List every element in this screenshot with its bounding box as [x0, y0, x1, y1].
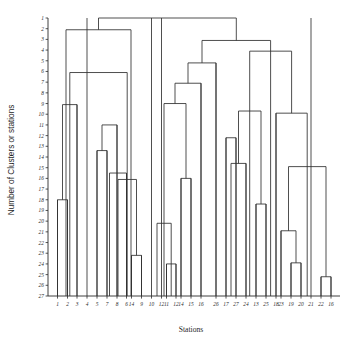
x-tick-label: 15 [188, 301, 194, 307]
x-tick-label: 14 [178, 301, 184, 307]
dendrogram-link [132, 255, 142, 296]
y-tick-label: 4 [41, 47, 44, 53]
y-tick-label: 27 [39, 293, 45, 299]
chart-title [0, 0, 361, 7]
y-tick-label: 1 [41, 15, 44, 21]
x-tick-label: 16 [198, 301, 204, 307]
y-axis-ticks: 1234567891011121314151617181920212223242… [39, 15, 48, 299]
y-tick-label: 16 [39, 175, 45, 181]
dendrogram-link [256, 204, 266, 296]
dendrogram-link [181, 178, 191, 296]
x-tick-label: 24 [243, 301, 249, 307]
dendrogram-link [175, 83, 201, 296]
x-tick-label: 21 [308, 301, 314, 307]
x-tick-label: 3 [75, 301, 79, 307]
y-tick-label: 9 [41, 101, 44, 107]
y-tick-label: 21 [39, 229, 45, 235]
y-tick-label: 25 [39, 272, 45, 278]
y-tick-label: 5 [41, 58, 44, 64]
dendrogram-link [321, 277, 331, 296]
x-tick-label: 19 [288, 301, 294, 307]
dendrogram-links [58, 18, 332, 296]
x-tick-label: 2 [66, 301, 69, 307]
dendrogram-link [188, 63, 216, 296]
x-tick-label: 16 [328, 301, 334, 307]
dendrogram-link [231, 163, 246, 296]
dendrogram-figure: 1234567891011121314151617181920212223242… [0, 0, 361, 340]
y-tick-label: 19 [39, 207, 45, 213]
y-tick-label: 11 [39, 122, 44, 128]
dendrogram-link [291, 263, 301, 296]
y-tick-label: 23 [39, 250, 45, 256]
y-tick-label: 15 [39, 165, 45, 171]
x-tick-label: 27 [233, 301, 239, 307]
y-tick-label: 13 [39, 143, 45, 149]
y-tick-label: 2 [41, 26, 44, 32]
x-tick-label: 4 [86, 301, 89, 307]
y-tick-label: 18 [39, 197, 45, 203]
y-tick-label: 22 [39, 240, 45, 246]
dendrogram-link [97, 151, 107, 296]
y-tick-label: 24 [39, 261, 45, 267]
x-tick-label: 7 [106, 301, 109, 307]
dendrogram-plot: 1234567891011121314151617181920212223242… [0, 0, 361, 340]
x-tick-label: 6 [125, 301, 128, 307]
x-tick-label: 25 [263, 301, 269, 307]
dendrogram-link [66, 30, 131, 296]
x-tick-label: 13 [253, 301, 259, 307]
x-tick-label: 23 [278, 301, 284, 307]
y-tick-label: 14 [39, 154, 45, 160]
dendrogram-link [70, 73, 127, 296]
x-tick-label: 5 [96, 301, 99, 307]
x-axis-title: Stations [179, 325, 204, 334]
y-tick-label: 17 [39, 186, 45, 192]
x-tick-label: 9 [140, 301, 143, 307]
y-tick-label: 8 [41, 90, 44, 96]
x-tick-label: 20 [298, 301, 304, 307]
dendrogram-link [281, 231, 296, 296]
dendrogram-link [99, 18, 237, 40]
y-tick-label: 10 [39, 111, 45, 117]
x-tick-label: 17 [223, 301, 229, 307]
x-axis-ticks: 1234578614910121112141516261727241325182… [56, 296, 334, 307]
x-tick-label: 22 [318, 301, 324, 307]
x-tick-label: 10 [149, 301, 155, 307]
y-tick-label: 3 [40, 36, 44, 42]
x-tick-label: 11 [164, 301, 169, 307]
x-tick-label: 8 [116, 301, 119, 307]
x-tick-label: 14 [129, 301, 135, 307]
y-tick-label: 20 [39, 218, 45, 224]
dendrogram-link [164, 104, 186, 296]
y-tick-label: 12 [39, 133, 45, 139]
x-tick-label: 26 [213, 301, 219, 307]
x-tick-label: 1 [56, 301, 59, 307]
y-axis-title: Number of Clusters or stations [7, 105, 16, 216]
y-tick-label: 6 [41, 68, 44, 74]
y-tick-label: 26 [39, 282, 45, 288]
y-tick-label: 7 [41, 79, 44, 85]
